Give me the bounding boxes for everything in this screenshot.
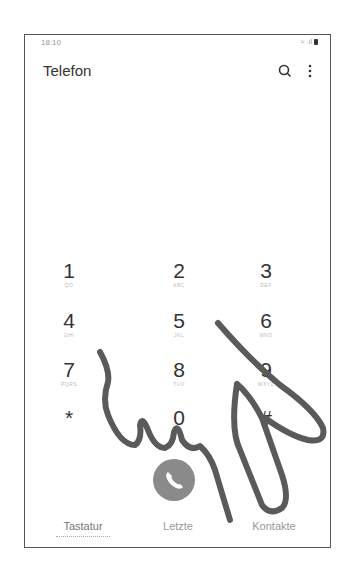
active-tab-indicator xyxy=(56,536,110,537)
dial-key-3[interactable]: 3DEF xyxy=(236,260,296,289)
tab-letzte[interactable]: Letzte xyxy=(138,520,218,532)
call-button[interactable] xyxy=(153,459,195,501)
dial-key-1[interactable]: 1QO xyxy=(39,260,99,289)
battery-icon xyxy=(314,39,318,45)
tab-tastatur[interactable]: Tastatur xyxy=(43,520,123,532)
dial-key-0[interactable]: 0 xyxy=(149,407,209,429)
phone-screen: 18:10 ≈ .ıl Telefon 1QO 2ABC 3DEF 4GHI 5… xyxy=(24,34,331,548)
dial-key-7[interactable]: 7PQRS xyxy=(39,359,99,388)
dial-key-hash[interactable]: # xyxy=(236,407,296,429)
dial-key-5[interactable]: 5JKL xyxy=(149,310,209,339)
status-icons: ≈ .ıl xyxy=(301,38,318,45)
signal-icon: .ıl xyxy=(307,38,312,45)
status-time: 18:10 xyxy=(41,38,61,47)
page-title: Telefon xyxy=(43,62,91,79)
dial-key-6[interactable]: 6MNO xyxy=(236,310,296,339)
phone-call-icon xyxy=(153,459,195,501)
dial-key-8[interactable]: 8TUV xyxy=(149,359,209,388)
dial-key-2[interactable]: 2ABC xyxy=(149,260,209,289)
more-vert-icon[interactable] xyxy=(304,63,316,79)
dial-key-4[interactable]: 4GHI xyxy=(39,310,99,339)
wifi-icon: ≈ xyxy=(301,38,305,45)
dial-key-star[interactable]: * xyxy=(39,407,99,429)
dial-key-9[interactable]: 9WXYZ xyxy=(236,359,296,388)
search-icon[interactable] xyxy=(277,63,293,79)
tab-kontakte[interactable]: Kontakte xyxy=(234,520,314,532)
